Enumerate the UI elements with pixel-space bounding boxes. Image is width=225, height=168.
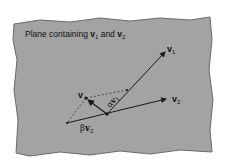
alpha-point <box>126 89 128 91</box>
beta-point <box>66 122 68 124</box>
v-point <box>84 96 87 99</box>
plane-title: Plane containing v1 and v2 <box>25 29 126 40</box>
origin-point <box>105 112 108 115</box>
v-label: v <box>78 90 83 100</box>
vector-plane-diagram: Plane containing v1 and v2 v1 v2 v αv1 β… <box>0 0 225 168</box>
